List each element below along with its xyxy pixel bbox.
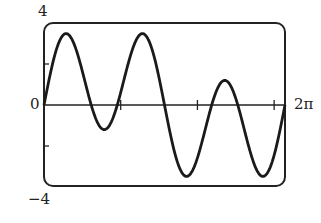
y-max-label: 4 [38,4,48,19]
origin-label: 0 [30,97,40,112]
x-max-label: 2π [294,97,313,112]
y-min-label: −4 [28,192,50,207]
